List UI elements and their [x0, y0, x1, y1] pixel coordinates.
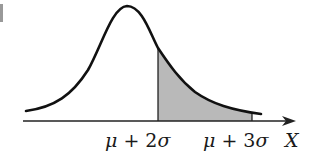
mu-symbol: μ — [105, 129, 117, 151]
tick-label-mu-plus-2sigma: μ + 2σ — [105, 131, 170, 150]
coefficient: 2 — [145, 129, 157, 151]
density-curve — [26, 6, 261, 114]
plus-operator: + — [215, 129, 243, 151]
x-axis-label: X — [285, 131, 299, 150]
sigma-symbol: σ — [157, 129, 170, 151]
coefficient: 3 — [243, 129, 255, 151]
sigma-symbol: σ — [255, 129, 268, 151]
tick-label-mu-plus-3sigma: μ + 3σ — [203, 131, 268, 150]
plus-operator: + — [117, 129, 145, 151]
mu-symbol: μ — [203, 129, 215, 151]
